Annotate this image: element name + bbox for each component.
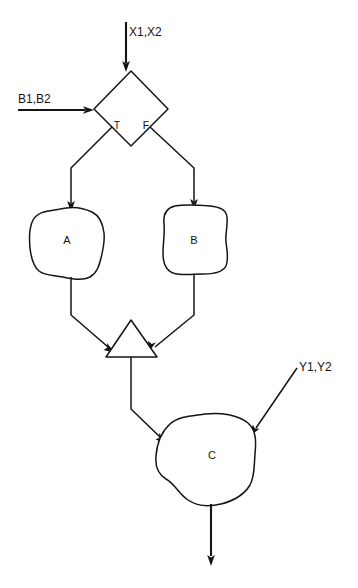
edge-input-y [250,368,297,436]
flowchart-svg: X1,X2 B1,B2 T F A B [0,0,358,588]
input-label-x: X1,X2 [129,25,162,39]
branch-label-false: F [143,119,149,131]
input-label-b: B1,B2 [18,92,51,106]
merge-triangle [106,320,157,357]
edge-decision-to-b [150,127,198,210]
edge-output [207,504,215,566]
input-label-y: Y1,Y2 [299,360,332,374]
edge-b-to-merge [148,275,194,353]
process-node-c [156,413,256,505]
branch-label-true: T [114,119,121,131]
edge-a-to-merge [71,277,115,353]
edge-decision-to-a [67,127,112,212]
edge-merge-to-c [131,357,167,443]
process-label-a: A [63,234,71,246]
process-label-c: C [208,449,216,461]
flowchart-canvas: X1,X2 B1,B2 T F A B [0,0,358,588]
process-label-b: B [190,234,197,246]
edge-input-b [18,106,94,114]
